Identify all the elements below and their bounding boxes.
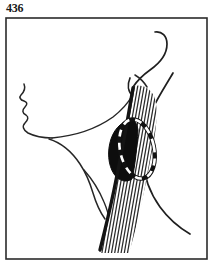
anatomical-illustration (0, 0, 213, 267)
figure-plate: 436 (0, 0, 213, 267)
